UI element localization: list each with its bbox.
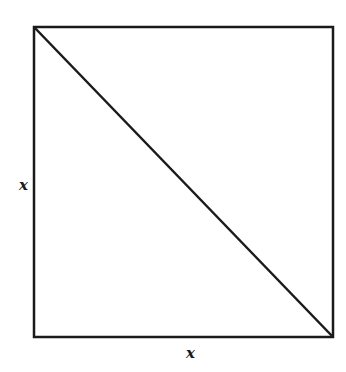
diagram-canvas: x x xyxy=(0,0,346,372)
square-diagram: x x xyxy=(0,0,346,372)
diagonal-line xyxy=(34,27,333,337)
left-side-label: x xyxy=(18,176,29,194)
bottom-side-label: x xyxy=(185,344,196,362)
